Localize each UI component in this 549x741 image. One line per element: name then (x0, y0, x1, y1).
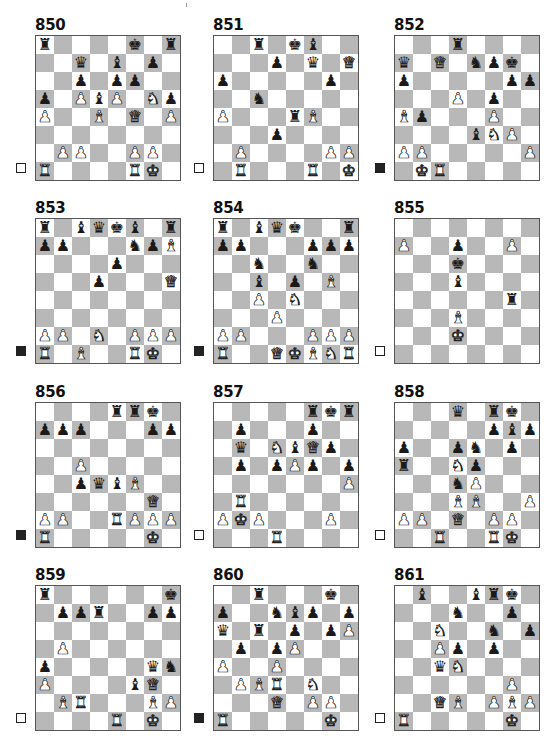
square-b3 (54, 676, 72, 694)
square-b6 (232, 622, 250, 640)
black-pawn-icon: ♟ (270, 457, 284, 475)
square-c7: ♛ (431, 54, 449, 72)
black-pawn-icon: ♟ (146, 604, 160, 622)
square-f8: ♝ (126, 219, 144, 237)
square-d5: ♞ (449, 457, 467, 475)
square-a2 (214, 694, 232, 712)
square-c8 (431, 586, 449, 604)
square-d4 (449, 291, 467, 309)
square-f8: ♚ (126, 36, 144, 54)
square-c4 (431, 291, 449, 309)
square-h3 (340, 676, 358, 694)
square-b3 (54, 309, 72, 327)
square-f2 (485, 327, 503, 345)
square-a3 (395, 493, 413, 511)
square-h5 (340, 90, 358, 108)
black-pawn-icon: ♟ (38, 658, 52, 676)
square-b7 (413, 604, 431, 622)
square-b7: ♟ (232, 421, 250, 439)
square-h3 (162, 309, 180, 327)
square-c4 (431, 108, 449, 126)
square-d2 (449, 144, 467, 162)
chess-board: ♜♚♝♟♛♛♟♟♞♟♜♝♟♟♟♟♜♜♚ (213, 35, 359, 181)
square-c1: ♜ (431, 162, 449, 180)
square-b6 (54, 622, 72, 640)
square-e1 (108, 162, 126, 180)
white-pawn-icon: ♟ (487, 694, 501, 712)
black-pawn-icon: ♟ (523, 72, 537, 90)
square-g5 (144, 273, 162, 291)
white-knight-icon: ♞ (92, 327, 106, 345)
square-a6 (36, 72, 54, 90)
square-c4 (250, 475, 268, 493)
white-pawn-icon: ♟ (487, 511, 501, 529)
square-b5: ♟ (54, 640, 72, 658)
chess-board: ♝♝♜♚♞♟♞♞♟♟♟♟♛♞♟♛♝♟♝♟♜♚ (394, 585, 540, 731)
square-f3 (485, 309, 503, 327)
square-b5 (413, 640, 431, 658)
square-f8: ♜ (304, 403, 322, 421)
black-pawn-icon: ♟ (469, 457, 483, 475)
square-b5 (232, 90, 250, 108)
square-a3 (395, 676, 413, 694)
black-bishop-icon: ♝ (110, 475, 124, 493)
black-pawn-icon: ♟ (306, 457, 320, 475)
square-b6 (54, 72, 72, 90)
square-f3: ♞ (304, 676, 322, 694)
square-e6 (108, 439, 126, 457)
square-c8 (431, 36, 449, 54)
white-rook-icon: ♜ (234, 162, 248, 180)
square-d2: ♝ (449, 694, 467, 712)
square-d7: ♞ (449, 604, 467, 622)
white-pawn-icon: ♟ (288, 457, 302, 475)
black-bishop-icon: ♝ (469, 126, 483, 144)
white-to-move-icon (194, 530, 204, 540)
black-pawn-icon: ♟ (523, 622, 537, 640)
square-a5 (395, 90, 413, 108)
square-a7 (36, 604, 54, 622)
square-a3 (214, 309, 232, 327)
white-bishop-icon: ♝ (252, 676, 266, 694)
square-e7 (108, 421, 126, 439)
square-f6: ♛ (304, 439, 322, 457)
chess-board: ♜♚♟♟♜♟♟♟♟♛♞♟♝♛♝♜♝♟♜♚ (35, 585, 181, 731)
square-d6 (268, 622, 286, 640)
white-pawn-icon: ♟ (146, 144, 160, 162)
square-f5: ♟ (485, 640, 503, 658)
square-c5 (250, 457, 268, 475)
white-pawn-icon: ♟ (523, 493, 537, 511)
square-g2: ♟ (144, 511, 162, 529)
black-queen-icon: ♛ (234, 439, 248, 457)
black-pawn-icon: ♟ (74, 604, 88, 622)
square-e4 (286, 658, 304, 676)
square-b8 (232, 219, 250, 237)
black-pawn-icon: ♟ (288, 622, 302, 640)
square-h3 (162, 493, 180, 511)
white-bishop-icon: ♝ (397, 108, 411, 126)
black-pawn-icon: ♟ (487, 640, 501, 658)
square-g7: ♟ (144, 237, 162, 255)
square-e4 (108, 658, 126, 676)
square-d1: ♛ (268, 345, 286, 363)
square-g8 (503, 36, 521, 54)
white-bishop-icon: ♝ (164, 237, 178, 255)
square-b8 (54, 403, 72, 421)
square-a2: ♟ (395, 144, 413, 162)
black-pawn-icon: ♟ (216, 237, 230, 255)
square-b3: ♜ (232, 493, 250, 511)
square-f8 (304, 219, 322, 237)
square-g6 (503, 255, 521, 273)
square-e2 (108, 144, 126, 162)
square-a6: ♟ (214, 72, 232, 90)
square-a3 (214, 493, 232, 511)
square-h6: ♟ (521, 622, 539, 640)
black-pawn-icon: ♟ (164, 604, 178, 622)
black-pawn-icon: ♟ (216, 604, 230, 622)
square-c8 (431, 403, 449, 421)
white-pawn-icon: ♟ (56, 327, 70, 345)
square-d5 (90, 640, 108, 658)
square-f7: ♟ (485, 54, 503, 72)
square-g2: ♝ (503, 694, 521, 712)
black-queen-icon: ♛ (397, 54, 411, 72)
square-c7 (431, 604, 449, 622)
